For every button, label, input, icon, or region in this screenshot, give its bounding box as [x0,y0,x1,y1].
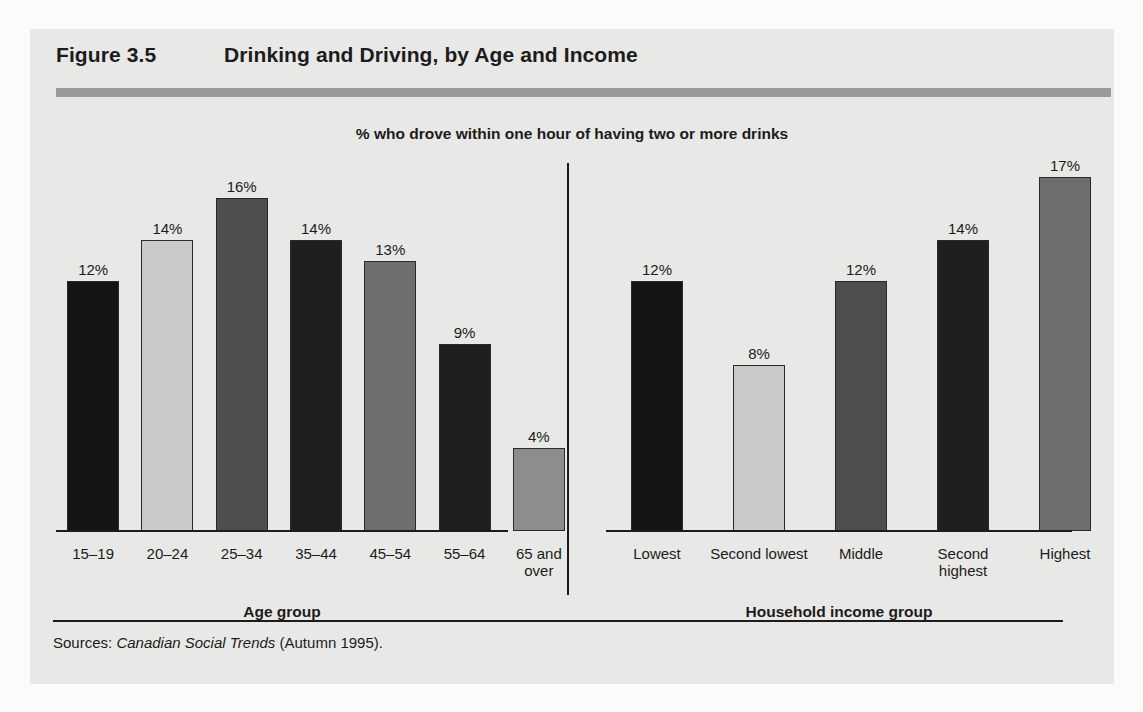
tick-label: 65 and over [502,537,576,580]
x-axis-line-age [56,530,508,532]
source-prefix: Sources: [53,634,112,651]
tick-label: Middle [810,537,912,562]
bar-series-age: 12%14%16%14%13%9%4% [44,141,582,531]
bar-age [67,281,119,531]
bar-income [631,281,683,531]
tick-label: Second lowest [708,537,810,562]
bar-slot: 12% [810,141,912,531]
source-date: (Autumn 1995). [280,634,383,651]
tick-label: 15–19 [56,537,130,562]
bar-slot: 13% [353,141,427,531]
bar-slot: 12% [56,141,130,531]
bar-value-label: 14% [301,221,331,236]
bar-value-label: 4% [528,429,550,444]
bar-value-label: 14% [948,221,978,236]
bar-value-label: 8% [748,346,770,361]
bar-value-label: 12% [846,262,876,277]
bar-age [439,344,491,531]
tick-label: 20–24 [130,537,204,562]
bar-age [513,448,565,531]
bar-age [290,240,342,531]
x-axis-line-income [606,530,1072,532]
bar-slot: 4% [502,141,576,531]
bar-series-income: 12%8%12%14%17% [590,141,1124,531]
source-rule [53,620,1063,622]
tick-label: 55–64 [427,537,501,562]
tick-label: 25–34 [205,537,279,562]
bar-age [364,261,416,531]
bar-income [835,281,887,531]
chart-age-group: 12%14%16%14%13%9%4% 15–1920–2425–3435–44… [44,149,564,639]
bar-age [141,240,193,531]
bar-income [733,365,785,531]
bar-slot: 17% [1014,141,1116,531]
figure-panel: Figure 3.5 Drinking and Driving, by Age … [30,29,1114,684]
plot-area: 12%14%16%14%13%9%4% 15–1920–2425–3435–44… [30,29,1114,684]
x-axis-title-income: Household income group [606,603,1072,621]
bar-value-label: 9% [454,325,476,340]
bar-value-label: 17% [1050,158,1080,173]
x-tick-labels-income: LowestSecond lowestMiddleSecond highestH… [590,537,1124,587]
bar-slot: 14% [130,141,204,531]
tick-label: Highest [1014,537,1116,562]
tick-label: 45–54 [353,537,427,562]
bar-value-label: 16% [227,179,257,194]
bar-value-label: 12% [642,262,672,277]
bar-slot: 16% [205,141,279,531]
bar-slot: 12% [606,141,708,531]
bar-slot: 9% [427,141,501,531]
bar-age [216,198,268,531]
bar-income [937,240,989,531]
bar-value-label: 13% [375,242,405,257]
x-tick-labels-age: 15–1920–2425–3435–4445–5455–6465 and ove… [44,537,582,587]
bar-value-label: 12% [78,262,108,277]
bar-slot: 14% [912,141,1014,531]
x-axis-title-age: Age group [56,603,508,621]
bar-slot: 8% [708,141,810,531]
source-note: Sources: Canadian Social Trends (Autumn … [53,634,383,651]
tick-label: 35–44 [279,537,353,562]
bar-value-label: 14% [152,221,182,236]
bar-income [1039,177,1091,531]
source-publication: Canadian Social Trends [116,634,275,651]
chart-income-group: 12%8%12%14%17% LowestSecond lowestMiddle… [590,149,1100,639]
bar-slot: 14% [279,141,353,531]
tick-label: Lowest [606,537,708,562]
tick-label: Second highest [912,537,1014,580]
